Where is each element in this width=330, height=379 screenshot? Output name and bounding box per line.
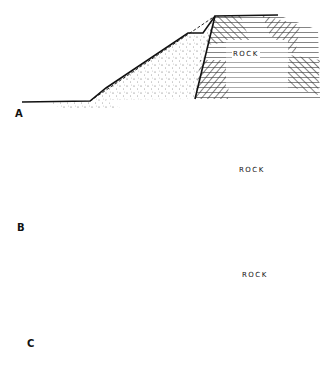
panel-a: [22, 15, 320, 108]
panel-label-c: C: [27, 338, 34, 349]
panel-label-a: A: [15, 108, 23, 119]
cross-section-drawing: [0, 0, 330, 379]
rock-label-c: ROCK: [241, 271, 269, 279]
panel-label-b: B: [17, 222, 25, 233]
rock-label-a: ROCK: [232, 50, 260, 58]
rock-label-b: ROCK: [238, 166, 266, 174]
